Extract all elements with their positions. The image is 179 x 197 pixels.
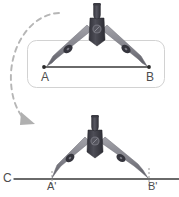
compass-bottom [52, 115, 148, 178]
diagram-canvas: A B C A' B' [0, 0, 179, 197]
compass-top [47, 3, 147, 66]
transfer-arrow [11, 13, 59, 125]
label-c: C [3, 172, 12, 184]
construction-ticks [52, 168, 149, 188]
segment-endpoint-b [147, 65, 151, 69]
compass-top-handle [93, 3, 101, 19]
compass-bottom-hinge [87, 130, 103, 158]
compass-top-right-leg [102, 25, 147, 66]
compass-top-left-leg [47, 25, 92, 66]
label-a: A [41, 71, 49, 83]
compass-bottom-handle [91, 115, 99, 131]
construction-diagram [0, 0, 179, 197]
label-b-prime: B' [148, 181, 157, 192]
arrowhead-icon [20, 112, 35, 125]
compass-top-hinge [89, 18, 105, 46]
label-b: B [146, 71, 154, 83]
segment-ab [42, 65, 151, 69]
compass-bottom-left-leg [52, 137, 90, 178]
segment-endpoint-a [42, 65, 46, 69]
compass-bottom-right-leg [100, 137, 148, 178]
label-a-prime: A' [47, 181, 56, 192]
